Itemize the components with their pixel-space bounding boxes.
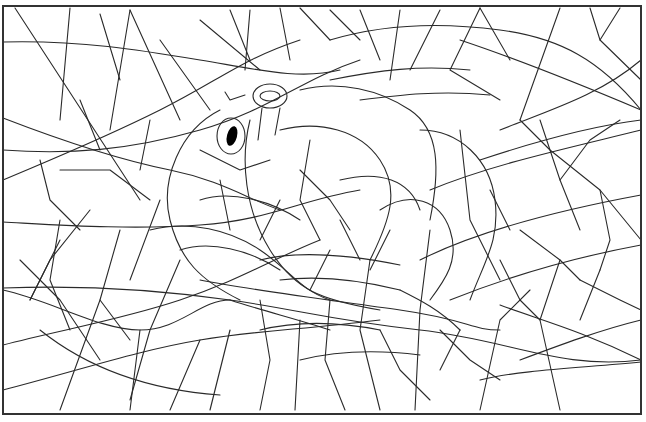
coloring-page	[0, 0, 646, 422]
mosaic-drawing	[0, 0, 646, 422]
